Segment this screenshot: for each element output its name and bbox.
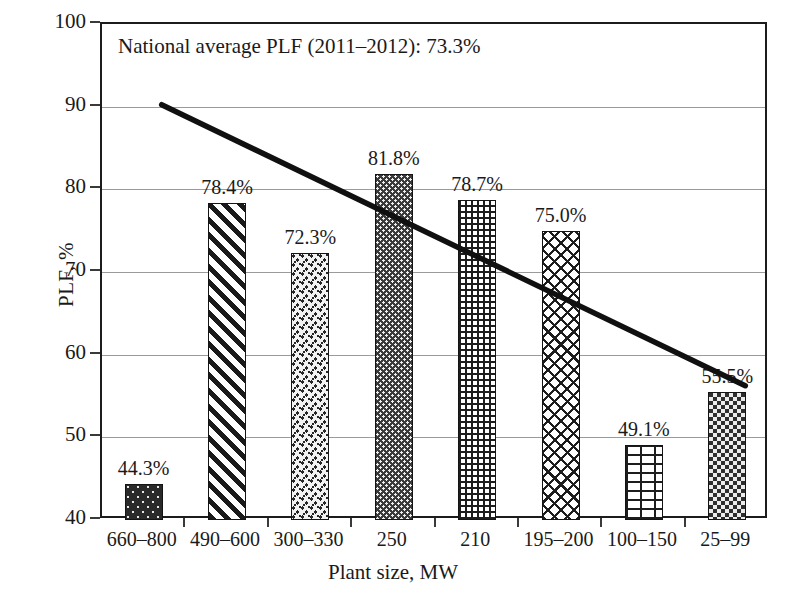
x-tick-label-25–99: 25–99 [670,528,780,550]
y-tick-label-50: 50 [40,424,86,445]
x-axis-title: Plant size, MW [0,560,786,585]
bar-660–800[interactable] [125,484,163,520]
bar-490–600[interactable] [208,203,246,520]
bar-value-label-25–99: 55.5% [682,366,772,386]
gridline-90 [102,107,765,108]
y-tick-label-60: 60 [40,342,86,363]
plot-area: 44.3%78.4%72.3%81.8%78.7%75.0%49.1%55.5%… [100,22,767,518]
gridline-60 [102,355,765,356]
x-tick-mark-4 [434,518,436,527]
x-tick-mark-2 [267,518,269,527]
bar-value-label-300–330: 72.3% [265,227,355,247]
bar-195–200[interactable] [542,231,580,520]
bar-value-label-490–600: 78.4% [182,177,272,197]
y-tick-mark-60 [90,352,100,354]
x-tick-mark-3 [350,518,352,527]
bar-value-label-660–800: 44.3% [99,458,189,478]
y-tick-mark-90 [90,104,100,106]
bar-210[interactable] [458,200,496,520]
y-tick-mark-70 [90,269,100,271]
y-tick-mark-80 [90,186,100,188]
x-tick-mark-5 [517,518,519,527]
bar-25–99[interactable] [708,392,746,520]
bar-value-label-100–150: 49.1% [599,419,689,439]
bar-value-label-210: 78.7% [432,174,522,194]
y-tick-mark-100 [90,21,100,23]
y-tick-label-90: 90 [40,94,86,115]
x-tick-mark-1 [183,518,185,527]
x-tick-mark-7 [684,518,686,527]
y-tick-label-100: 100 [40,11,86,32]
gridline-70 [102,272,765,273]
y-tick-label-80: 80 [40,176,86,197]
bar-value-label-250: 81.8% [349,148,439,168]
y-tick-mark-50 [90,434,100,436]
y-tick-mark-40 [90,517,100,519]
bar-100–150[interactable] [625,445,663,520]
plf-bar-chart: PLF, % 405060708090100 44.3%78.4%72.3%81… [0,0,786,597]
bar-300–330[interactable] [291,253,329,520]
bar-value-label-195–200: 75.0% [516,205,606,225]
bar-250[interactable] [375,174,413,520]
national-average-note: National average PLF (2011–2012): 73.3% [118,34,481,58]
y-tick-label-40: 40 [40,507,86,528]
y-tick-label-70: 70 [40,259,86,280]
x-tick-mark-6 [600,518,602,527]
